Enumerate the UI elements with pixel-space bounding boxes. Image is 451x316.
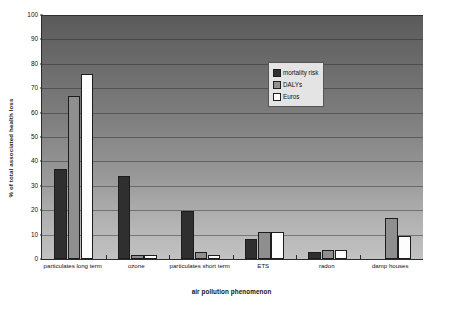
bar-euros-damp-houses bbox=[398, 236, 411, 259]
x-axis-category-labels: particulates long termozoneparticulates … bbox=[41, 262, 422, 290]
chart-legend: mortality riskDALYsEuros bbox=[268, 62, 324, 107]
bar-chart: % of total associated health loss 010203… bbox=[0, 0, 451, 316]
plot-area bbox=[41, 15, 423, 260]
legend-swatch-icon bbox=[273, 81, 281, 89]
y-axis-tick-80: 80 bbox=[31, 61, 38, 67]
bar-dalys-radon bbox=[322, 250, 335, 259]
x-axis-label-radon: radon bbox=[295, 262, 359, 271]
legend-label: Euros bbox=[283, 93, 299, 100]
gridline bbox=[42, 210, 423, 211]
bar-euros-radon bbox=[335, 250, 348, 259]
legend-label: DALYs bbox=[283, 81, 302, 88]
bar-mortality-risk-ets bbox=[245, 239, 258, 259]
legend-item-mortality-risk: mortality risk bbox=[273, 67, 318, 78]
y-axis-tick-labels: 0102030405060708090100 bbox=[18, 15, 40, 259]
x-axis-label-particulates-long-term: particulates long term bbox=[41, 262, 105, 271]
x-axis-label-damp-houses: damp houses bbox=[359, 262, 423, 271]
gridline bbox=[42, 235, 423, 236]
bar-euros-particulates-short-term bbox=[208, 255, 221, 259]
bar-euros-ets bbox=[271, 232, 284, 259]
x-axis-label-ets: ETS bbox=[232, 262, 296, 271]
bar-dalys-ozone bbox=[131, 255, 144, 259]
gridline bbox=[42, 88, 423, 89]
legend-item-dalys: DALYs bbox=[273, 79, 318, 90]
y-axis-tick-40: 40 bbox=[31, 158, 38, 164]
legend-label: mortality risk bbox=[283, 69, 318, 76]
x-axis-separator-tick bbox=[296, 255, 297, 259]
y-axis-tick-50: 50 bbox=[31, 134, 38, 140]
bar-dalys-particulates-short-term bbox=[195, 252, 208, 259]
legend-item-euros: Euros bbox=[273, 91, 318, 102]
x-axis-label-ozone: ozone bbox=[105, 262, 169, 271]
bar-mortality-risk-radon bbox=[308, 252, 321, 259]
bar-euros-particulates-long-term bbox=[81, 74, 94, 259]
y-axis-tick-0: 0 bbox=[34, 256, 38, 262]
y-axis-tick-90: 90 bbox=[31, 36, 38, 42]
y-axis-tick-70: 70 bbox=[31, 85, 38, 91]
gridline bbox=[42, 113, 423, 114]
bar-dalys-ets bbox=[258, 232, 271, 259]
bar-mortality-risk-ozone bbox=[118, 176, 131, 259]
gridline bbox=[42, 161, 423, 162]
y-axis-tick-100: 100 bbox=[27, 12, 38, 18]
bar-dalys-damp-houses bbox=[385, 218, 398, 259]
x-axis-separator-tick bbox=[233, 255, 234, 259]
y-axis-tick-30: 30 bbox=[31, 183, 38, 189]
x-axis-separator-tick bbox=[169, 255, 170, 259]
x-axis-title: air pollution phenomenon bbox=[41, 288, 422, 295]
gridline bbox=[42, 64, 423, 65]
legend-swatch-icon bbox=[273, 69, 281, 77]
legend-swatch-icon bbox=[273, 93, 281, 101]
gridline bbox=[42, 186, 423, 187]
y-axis-title-text: % of total associated health loss bbox=[7, 78, 14, 218]
x-axis-label-particulates-short-term: particulates short term bbox=[168, 262, 232, 271]
x-axis-separator-tick bbox=[360, 255, 361, 259]
bar-mortality-risk-particulates-long-term bbox=[54, 169, 67, 259]
y-axis-tick-10: 10 bbox=[31, 231, 38, 237]
gridline bbox=[42, 15, 423, 16]
y-axis-tick-60: 60 bbox=[31, 109, 38, 115]
gridline bbox=[42, 39, 423, 40]
bar-mortality-risk-particulates-short-term bbox=[181, 211, 194, 259]
x-axis-separator-tick bbox=[106, 255, 107, 259]
bar-dalys-particulates-long-term bbox=[68, 96, 81, 259]
gridline bbox=[42, 137, 423, 138]
bar-euros-ozone bbox=[144, 255, 157, 259]
y-axis-tick-20: 20 bbox=[31, 207, 38, 213]
